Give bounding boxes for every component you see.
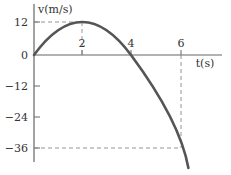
velocity-curve	[34, 22, 188, 168]
y-tick-label-neg12: −12	[5, 80, 28, 93]
y-ticks	[34, 22, 40, 148]
y-tick-label-12: 12	[14, 16, 28, 29]
x-tick-label-6: 6	[178, 37, 185, 50]
x-tick-label-2: 2	[79, 37, 86, 50]
y-axis-label: v(m/s)	[37, 3, 73, 16]
x-axis-label: t(s)	[196, 57, 215, 70]
velocity-time-chart: v(m/s) t(s) 12 0 −12 −24 −36 2 4 6	[0, 0, 231, 175]
x-tick-label-4: 4	[128, 37, 135, 50]
y-tick-label-0: 0	[21, 49, 28, 62]
y-tick-label-neg36: −36	[5, 142, 28, 155]
y-tick-label-neg24: −24	[5, 111, 28, 124]
guide-lines	[34, 22, 181, 148]
